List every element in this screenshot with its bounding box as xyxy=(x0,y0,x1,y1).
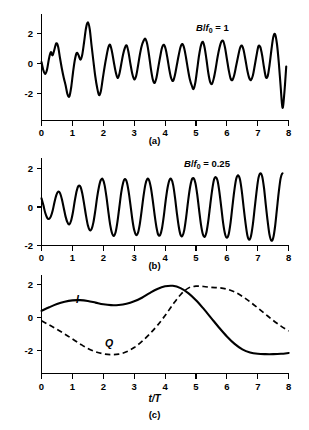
panel-b-plot: 2 0 -2 0 1 2 3 4 5 6 7 8 xyxy=(0,148,309,273)
xtick-label-0: 0 xyxy=(39,381,44,392)
panel-c-caption: (c) xyxy=(0,409,309,420)
waveform-trace-b xyxy=(42,173,283,241)
xtick-label-6: 6 xyxy=(224,381,229,392)
curve-label-i: I xyxy=(76,293,79,305)
panel-a-plot: 2 0 -2 0 1 2 3 4 5 6 7 8 xyxy=(0,0,309,148)
waveform-trace-a xyxy=(42,22,287,108)
panel-c-xaxis-title: t/T xyxy=(0,393,309,404)
ytick-label-2: 2 xyxy=(28,279,33,290)
panel-c-xtick-labels: 0 1 2 3 4 5 6 7 8 xyxy=(39,381,291,392)
panel-c-axes xyxy=(37,275,290,379)
xtick-label-2: 2 xyxy=(101,381,106,392)
ytick-label-0: 0 xyxy=(28,58,33,69)
ytick-label-0: 0 xyxy=(28,312,33,323)
panel-c-plot: 2 0 -2 0 1 2 3 4 5 6 7 8 xyxy=(0,273,309,430)
ytick-label-minus2: -2 xyxy=(25,240,33,251)
xtick-label-4: 4 xyxy=(162,381,168,392)
panel-c-ytick-labels: 2 0 -2 xyxy=(25,279,33,356)
xtick-label-8: 8 xyxy=(286,381,291,392)
xtick-label-5: 5 xyxy=(193,381,199,392)
panel-a-ytick-labels: 2 0 -2 xyxy=(25,28,33,99)
ytick-label-2: 2 xyxy=(28,28,33,39)
xtick-label-7: 7 xyxy=(255,381,260,392)
panel-a: 2 0 -2 0 1 2 3 4 5 6 7 8 B/f0 = 1 (a) xyxy=(0,0,309,148)
xtick-label-3: 3 xyxy=(132,381,137,392)
curve-label-q: Q xyxy=(105,337,113,349)
figure-noise-waveforms: 2 0 -2 0 1 2 3 4 5 6 7 8 B/f0 = 1 (a) xyxy=(0,0,309,430)
xtick-label-1: 1 xyxy=(70,381,76,392)
ytick-label-2: 2 xyxy=(28,163,33,174)
ytick-label-minus2: -2 xyxy=(25,88,33,99)
panel-b-ytick-labels: 2 0 -2 xyxy=(25,163,33,251)
panel-a-annotation: B/f0 = 1 xyxy=(196,22,229,34)
panel-b-caption: (b) xyxy=(0,260,309,271)
panel-b: 2 0 -2 0 1 2 3 4 5 6 7 8 B/f0 = 0.25 (b) xyxy=(0,148,309,273)
ytick-label-minus2: -2 xyxy=(25,345,33,356)
panel-c: 2 0 -2 0 1 2 3 4 5 6 7 8 I Q t/T (c) xyxy=(0,273,309,430)
panel-b-annotation: B/f0 = 0.25 xyxy=(184,158,230,170)
panel-a-caption: (a) xyxy=(0,135,309,146)
ytick-label-0: 0 xyxy=(28,202,33,213)
